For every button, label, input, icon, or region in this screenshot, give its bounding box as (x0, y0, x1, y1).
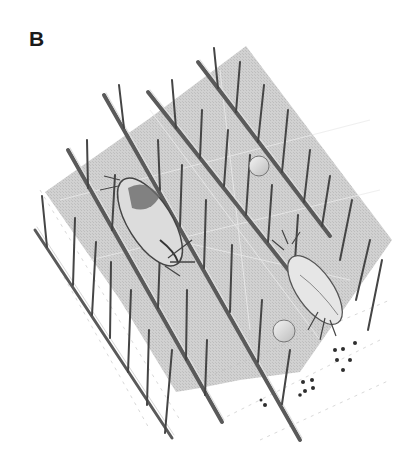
sphere-upper (249, 156, 269, 176)
gray-plane (45, 46, 392, 392)
sphere-lower (273, 320, 295, 342)
illustration (0, 0, 409, 467)
